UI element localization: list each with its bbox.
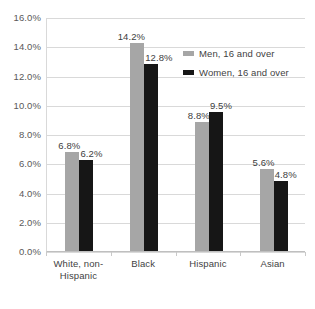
bar-group: 14.2%12.8%: [130, 18, 158, 251]
bar-women[interactable]: [79, 160, 93, 251]
legend-item-women[interactable]: Women, 16 and over: [183, 63, 289, 82]
chart-legend: Men, 16 and over Women, 16 and over: [183, 44, 289, 82]
legend-swatch-men-icon: [183, 51, 194, 56]
x-axis-tick-label: White, non- Hispanic: [46, 258, 111, 282]
legend-label-men: Men, 16 and over: [199, 48, 275, 59]
bar-women[interactable]: [274, 181, 288, 251]
x-axis-tick-label: Hispanic: [176, 258, 241, 270]
bar-value-label: 9.5%: [210, 101, 232, 111]
bar-value-label: 6.2%: [80, 149, 102, 159]
bar-value-label: 12.8%: [145, 53, 172, 63]
legend-item-men[interactable]: Men, 16 and over: [183, 44, 289, 63]
bar-value-label: 8.8%: [188, 111, 210, 121]
y-axis-tick-label: 14.0%: [1, 42, 41, 52]
y-axis-tick-label: 0.0%: [1, 247, 41, 257]
bar-men[interactable]: [195, 122, 209, 251]
bar-men[interactable]: [130, 43, 144, 251]
x-axis-tick-mark: [305, 252, 306, 256]
x-axis-tick-mark: [111, 252, 112, 256]
bar-women[interactable]: [144, 64, 158, 251]
bar-men[interactable]: [260, 169, 274, 251]
bar-women[interactable]: [209, 112, 223, 251]
bar-men[interactable]: [65, 152, 79, 251]
y-axis-tick-label: 2.0%: [1, 218, 41, 228]
x-axis-tick-label: Black: [111, 258, 176, 270]
x-axis-tick-label: Asian: [240, 258, 305, 270]
y-axis-tick-label: 16.0%: [1, 13, 41, 23]
x-axis-tick-mark: [46, 252, 47, 256]
y-axis-tick-label: 6.0%: [1, 159, 41, 169]
bar-group: 6.8%6.2%: [65, 18, 93, 251]
legend-label-women: Women, 16 and over: [199, 67, 289, 78]
x-axis-tick-mark: [240, 252, 241, 256]
y-axis-tick-label: 8.0%: [1, 130, 41, 140]
bar-value-label: 5.6%: [253, 158, 275, 168]
bar-value-label: 4.8%: [275, 170, 297, 180]
y-axis-tick-label: 12.0%: [1, 72, 41, 82]
legend-swatch-women-icon: [183, 70, 194, 75]
bar-value-label: 6.8%: [58, 141, 80, 151]
y-axis-tick-label: 10.0%: [1, 101, 41, 111]
bar-chart: 0.0%2.0%4.0%6.0%8.0%10.0%12.0%14.0%16.0%…: [0, 0, 315, 309]
x-axis-tick-mark: [176, 252, 177, 256]
y-axis-tick-label: 4.0%: [1, 189, 41, 199]
bar-value-label: 14.2%: [118, 32, 145, 42]
